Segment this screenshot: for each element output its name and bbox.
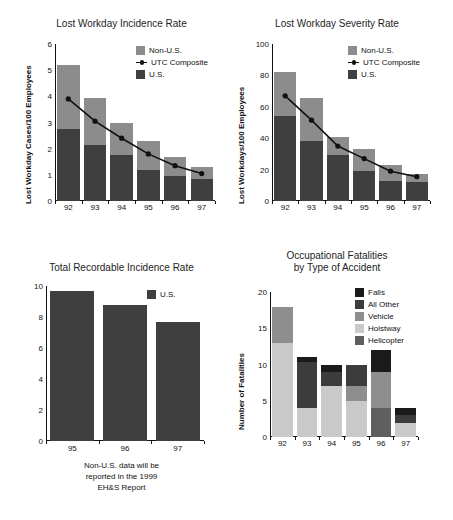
bar-segment (50, 291, 94, 441)
x-tick-label: 97 (404, 203, 430, 212)
x-axis-tick (369, 437, 370, 440)
stacked-bar (321, 365, 342, 438)
legend-item: U.S. (136, 70, 208, 79)
composite-line-marker (283, 93, 288, 98)
y-tick-label: 0 (48, 197, 55, 206)
x-tick-label: 97 (188, 203, 215, 212)
y-axis-label-incidence: Lost Workday Cases/100 Employees (24, 65, 33, 204)
bar-segment (156, 322, 200, 441)
legend-item: Hoistway (355, 324, 404, 333)
bar-segment (321, 386, 342, 437)
x-tick-label: 93 (295, 439, 320, 448)
bar-segment (346, 365, 367, 387)
x-tick-label: 94 (319, 439, 344, 448)
legend-item: Vehicle (355, 312, 404, 321)
x-axis-tick (108, 201, 109, 204)
y-tick-label: 5 (263, 396, 270, 405)
legend-item: All Other (355, 300, 404, 309)
bar-segment (103, 305, 147, 441)
composite-line-marker (414, 174, 419, 179)
y-tick-label: 10 (34, 282, 46, 291)
bar-segment (395, 408, 416, 415)
x-labels-recordable: 959697 (46, 444, 204, 453)
y-tick-label: 4 (39, 375, 46, 384)
bar-segment (272, 343, 293, 437)
legend-label: Hoistway (368, 324, 400, 333)
stacked-bar (50, 291, 94, 441)
chart-panel-incidence: Lost Workday Incidence Rate Lost Workday… (14, 18, 229, 233)
bar-slot (319, 292, 344, 437)
x-tick-label: 96 (99, 444, 152, 453)
y-tick-label: 0 (263, 433, 270, 442)
bar-slot (295, 292, 320, 437)
bar-segment (346, 401, 367, 437)
bar-segment (321, 372, 342, 387)
legend-swatch-icon (136, 70, 145, 79)
x-axis-tick (298, 201, 299, 204)
bar-segment (297, 408, 318, 437)
legend-item: UTC Composite (348, 58, 420, 67)
x-axis-tick (82, 201, 83, 204)
x-tick-label: 95 (351, 203, 377, 212)
stacked-bar (272, 307, 293, 438)
bar-segment (371, 408, 392, 437)
legend-recordable: U.S. (147, 290, 176, 302)
stacked-bar (156, 322, 200, 441)
legend-item: U.S. (348, 70, 420, 79)
composite-line-marker (362, 156, 367, 161)
x-axis-tick (188, 201, 189, 204)
x-axis-tick (430, 201, 431, 204)
chart-title-incidence: Lost Workday Incidence Rate (14, 18, 229, 30)
legend-label: Non-U.S. (149, 46, 182, 55)
y-tick-label: 20 (260, 165, 272, 174)
legend-swatch-icon (355, 288, 364, 297)
y-tick-label: 80 (260, 71, 272, 80)
y-tick-label: 5 (48, 66, 55, 75)
chart-panel-recordable: Total Recordable Incidence Rate 0246810 … (14, 262, 229, 512)
x-axis-tick (99, 441, 100, 444)
x-tick-label: 93 (298, 203, 324, 212)
legend-label: All Other (368, 300, 399, 309)
x-axis-tick (351, 201, 352, 204)
legend-swatch-icon (355, 300, 364, 309)
stacked-bar (371, 350, 392, 437)
stacked-bar (395, 408, 416, 437)
bar-segment (297, 362, 318, 408)
legend-label: U.S. (361, 70, 377, 79)
x-tick-label: 96 (369, 439, 394, 448)
x-axis-tick (295, 437, 296, 440)
y-tick-label: 6 (48, 40, 55, 49)
y-tick-label: 60 (260, 102, 272, 111)
legend-item: Non-U.S. (136, 46, 208, 55)
bar-segment (371, 350, 392, 372)
stacked-bar (103, 305, 147, 441)
bar-segment (321, 365, 342, 372)
chart-title-recordable: Total Recordable Incidence Rate (14, 262, 229, 274)
bar-slot (270, 292, 295, 437)
legend-label: Helicopter (368, 336, 404, 345)
legend-item: UTC Composite (136, 58, 208, 67)
y-tick-label: 2 (39, 406, 46, 415)
x-axis-tick (151, 441, 152, 444)
x-axis-tick (135, 201, 136, 204)
composite-line-path (68, 99, 201, 174)
y-tick-label: 40 (260, 134, 272, 143)
stacked-bar (297, 357, 318, 437)
chart-title-fatalities: Occupational Fatalities by Type of Accid… (228, 250, 446, 274)
x-axis-tick (377, 201, 378, 204)
x-axis-tick (46, 441, 47, 444)
x-labels-incidence: 929394959697 (55, 203, 215, 212)
x-axis-tick (215, 201, 216, 204)
legend-label: Vehicle (368, 312, 394, 321)
plot-area-recordable: 0246810 959697 (46, 286, 204, 441)
y-tick-label: 10 (258, 360, 270, 369)
bar-segment (395, 415, 416, 422)
chart-title-severity: Lost Workday Severity Rate (228, 18, 446, 30)
legend-severity: Non-U.S.UTC CompositeU.S. (348, 46, 420, 82)
x-tick-label: 94 (108, 203, 135, 212)
composite-line-marker (119, 136, 124, 141)
x-axis-tick (270, 437, 271, 440)
legend-item: U.S. (147, 290, 176, 299)
bar-slot (99, 286, 152, 441)
composite-line-marker (309, 118, 314, 123)
